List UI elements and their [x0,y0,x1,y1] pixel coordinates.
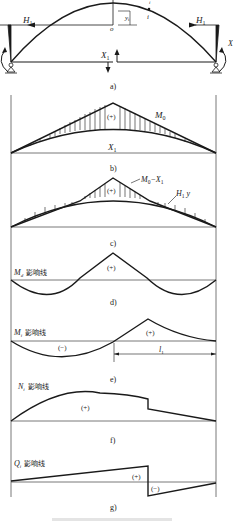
h1y-curve [11,201,216,227]
figure-caption-faint [52,518,172,521]
svg-text:H1y: H1y [175,189,191,199]
svg-text:Md影响线: Md影响线 [13,268,47,278]
x1-arrow-up-icon [115,49,120,55]
svg-text:M0−X1: M0−X1 [140,175,164,185]
panel-e-labels: Mi影响线 (+) (−) l1 e) [13,328,164,384]
x1-arrow-down-icon [106,67,111,73]
svg-text:d): d) [110,298,117,307]
section-point [148,8,151,11]
left-post [8,25,11,62]
svg-text:X1: X1 [107,142,117,153]
panel-a-structure [0,0,226,73]
right-moment-arc-icon [219,50,226,72]
panel-f-ni-influence-line [11,392,216,421]
qi-curve [11,466,216,496]
svg-text:X: X [227,39,233,48]
svg-text:H1: H1 [195,15,206,26]
svg-text:i: i [147,13,149,21]
svg-text:(+): (+) [146,329,155,337]
svg-text:e): e) [110,375,117,384]
svg-text:yi: yi [124,14,130,22]
dim-arrow-right-icon [211,353,216,356]
svg-text:a): a) [110,82,117,91]
dim-arrow-left-icon [114,353,119,356]
mi-curve [11,319,216,357]
svg-text:(+): (+) [81,404,90,412]
diff-curve [11,178,216,227]
panel-b-m0-diagram [11,103,216,153]
svg-text:f): f) [110,436,116,445]
left-moment-arc-icon [1,50,8,72]
arch-curve [11,3,216,62]
svg-text:M0: M0 [154,110,166,121]
svg-text:(+): (+) [107,264,116,272]
panel-d-labels: Md影响线 (+) d) [13,264,117,307]
svg-text:H1: H1 [22,15,33,26]
svg-text:l1: l1 [159,345,164,355]
svg-text:(+): (+) [107,113,116,121]
svg-text:X1: X1 [100,50,110,61]
panel-b-labels: (+) M0 X1 b) [107,110,166,173]
svg-text:Qi影响线: Qi影响线 [14,459,45,469]
svg-text:(+): (+) [132,473,141,481]
panel-e-mi-influence-line [11,319,216,362]
m0-curve [11,103,216,153]
svg-text:g): g) [110,503,117,512]
right-post [216,25,219,62]
svg-text:o: o [110,25,114,33]
svg-text:(−): (−) [58,344,67,352]
svg-text:c): c) [110,239,117,248]
svg-text:Ni影响线: Ni影响线 [17,382,49,392]
svg-text:b): b) [110,164,117,173]
svg-text:(+): (+) [107,187,116,195]
panel-f-labels: Ni影响线 (+) f) [17,382,116,445]
arch-influence-line-figure: H1 H1 X1 o i i yi X a) (+ [0,0,233,526]
panel-g-qi-influence-line [11,466,216,496]
svg-text:i: i [149,0,151,5]
panel-c-diff-diagram [11,178,216,227]
ni-curve [11,392,216,421]
svg-text:Mi影响线: Mi影响线 [13,328,46,338]
svg-text:(−): (−) [151,485,160,493]
